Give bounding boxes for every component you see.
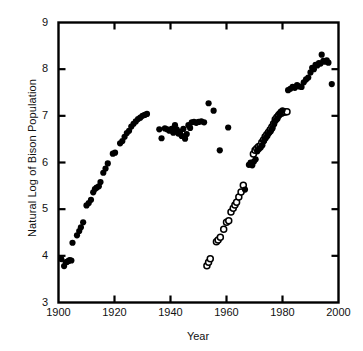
data-point	[112, 150, 118, 156]
data-point	[201, 119, 207, 125]
plot-frame	[59, 23, 339, 303]
data-point	[88, 197, 94, 203]
y-tick-label-4: 4	[22, 250, 48, 261]
x-tick-label-2000: 2000	[319, 306, 359, 318]
x-axis-title: Year	[58, 330, 338, 342]
data-point	[225, 124, 231, 130]
data-point	[68, 257, 74, 263]
data-point	[69, 240, 75, 246]
data-point	[279, 107, 285, 113]
y-tick-label-7: 7	[22, 110, 48, 121]
axes-layer	[59, 23, 339, 303]
y-tick-label-9: 9	[22, 17, 48, 28]
data-point	[217, 147, 223, 153]
x-tick-label-1940: 1940	[151, 306, 191, 318]
y-tick-label-8: 8	[22, 63, 48, 74]
data-point	[221, 226, 227, 232]
x-tick-label-1900: 1900	[39, 306, 79, 318]
data-point	[242, 186, 248, 192]
filled-circle-series	[58, 52, 335, 270]
data-point	[205, 100, 211, 106]
data-point	[325, 60, 331, 66]
data-point	[158, 135, 164, 141]
x-tick-label-1960: 1960	[207, 306, 247, 318]
data-point	[156, 126, 162, 132]
data-point	[253, 156, 259, 162]
data-point	[207, 256, 213, 262]
data-point	[217, 234, 223, 240]
plot-canvas	[0, 0, 363, 351]
tick-marks-layer	[59, 23, 339, 303]
data-point	[187, 125, 193, 131]
data-point	[97, 179, 103, 185]
data-point	[226, 218, 232, 224]
x-tick-label-1920: 1920	[95, 306, 135, 318]
bison-population-scatter-chart: Natural Log of Bison Population Year 190…	[0, 0, 363, 351]
x-tick-label-1980: 1980	[263, 306, 303, 318]
data-point	[144, 111, 150, 117]
data-point	[105, 160, 111, 166]
y-tick-label-6: 6	[22, 157, 48, 168]
y-tick-label-5: 5	[22, 203, 48, 214]
data-point	[80, 219, 86, 225]
data-point	[180, 126, 186, 132]
y-tick-label-3: 3	[22, 297, 48, 308]
data-point	[319, 52, 325, 58]
data-point	[329, 81, 335, 87]
data-point	[211, 108, 217, 114]
data-point	[184, 131, 190, 137]
